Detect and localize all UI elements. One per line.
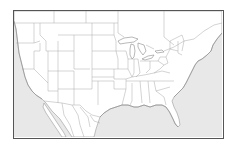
map-frame [13, 10, 224, 139]
us-outline-map [14, 11, 222, 137]
lake-michigan [130, 44, 135, 59]
